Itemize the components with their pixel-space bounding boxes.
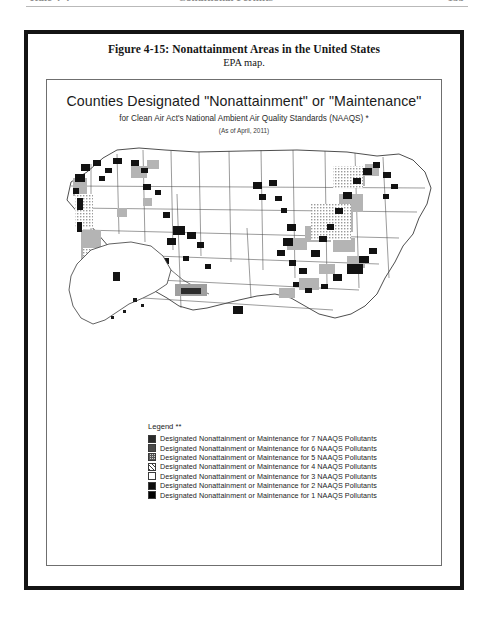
map-as-of-date: (As of April, 2011) bbox=[47, 127, 441, 134]
legend-swatch-3-pollutants bbox=[148, 472, 156, 480]
figure-frame: Figure 4-15: Nonattainment Areas in the … bbox=[24, 30, 464, 590]
legend-label-7-pollutants: Designated Nonattainment or Maintenance … bbox=[160, 434, 377, 443]
legend-title: Legend ** bbox=[148, 422, 438, 431]
legend-swatch-7-pollutants bbox=[148, 435, 156, 443]
legend-label-6-pollutants: Designated Nonattainment or Maintenance … bbox=[160, 444, 377, 453]
legend-item-3: Designated Nonattainment or Maintenance … bbox=[148, 472, 438, 481]
legend-label-2-pollutants: Designated Nonattainment or Maintenance … bbox=[160, 481, 377, 490]
legend-swatch-2-pollutants bbox=[148, 482, 156, 490]
legend-swatch-6-pollutants bbox=[148, 444, 156, 452]
legend-item-1: Designated Nonattainment or Maintenance … bbox=[148, 490, 438, 499]
legend-label-4-pollutants: Designated Nonattainment or Maintenance … bbox=[160, 462, 377, 471]
legend-label-5-pollutants: Designated Nonattainment or Maintenance … bbox=[160, 453, 377, 462]
legend-label-3-pollutants: Designated Nonattainment or Maintenance … bbox=[160, 472, 377, 481]
legend-swatch-5-pollutants bbox=[148, 453, 156, 461]
legend-item-5: Designated Nonattainment or Maintenance … bbox=[148, 453, 438, 462]
legend-item-2: Designated Nonattainment or Maintenance … bbox=[148, 481, 438, 490]
figure-caption-title: Figure 4-15: Nonattainment Areas in the … bbox=[28, 43, 460, 55]
page-header: Rule 4-4 Conditional Permits 155 bbox=[0, 0, 492, 9]
legend-item-4: Designated Nonattainment or Maintenance … bbox=[148, 462, 438, 471]
us-county-map-graphic bbox=[47, 138, 441, 388]
map-panel: Counties Designated "Nonattainment" or "… bbox=[46, 79, 442, 566]
page-header-rule bbox=[26, 6, 468, 7]
legend-item-7: Designated Nonattainment or Maintenance … bbox=[148, 434, 438, 443]
page-header-right: 155 bbox=[448, 0, 465, 3]
map-legend: Legend ** Designated Nonattainment or Ma… bbox=[148, 422, 438, 500]
map-subtitle: for Clean Air Act's National Ambient Air… bbox=[47, 114, 441, 123]
legend-label-1-pollutants: Designated Nonattainment or Maintenance … bbox=[160, 491, 377, 500]
page-header-center: Conditional Permits bbox=[178, 0, 273, 3]
legend-item-6: Designated Nonattainment or Maintenance … bbox=[148, 443, 438, 452]
figure-caption-subtitle: EPA map. bbox=[28, 57, 460, 68]
map-title: Counties Designated "Nonattainment" or "… bbox=[47, 93, 441, 109]
legend-swatch-1-pollutants bbox=[148, 491, 156, 499]
page-header-left: Rule 4-4 bbox=[30, 0, 69, 3]
legend-swatch-4-pollutants bbox=[148, 463, 156, 471]
figure-caption: Figure 4-15: Nonattainment Areas in the … bbox=[28, 34, 460, 68]
